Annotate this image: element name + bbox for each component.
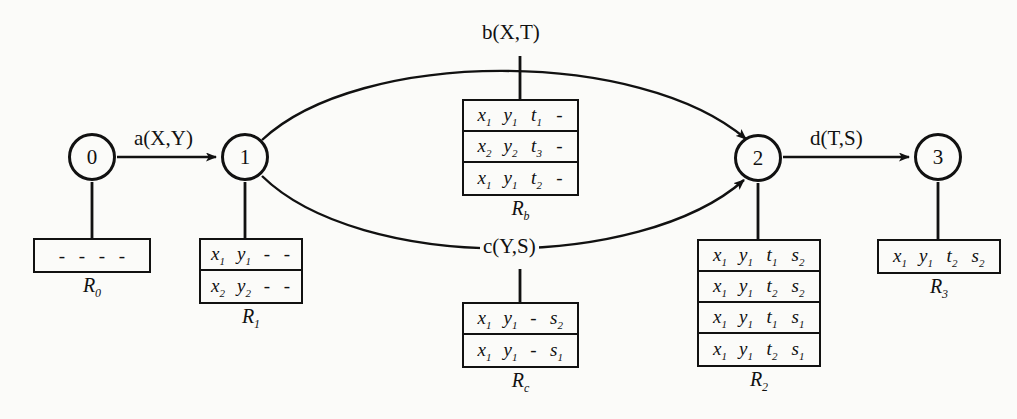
table-row-cells: x1y1t1-: [476, 104, 565, 128]
table-cell: y1: [738, 244, 755, 268]
relation-table-Rb-body: x1y1t1-x2y2t3-x1y1t2-: [462, 99, 579, 196]
relation-table-R3: x1y1t2s2 R3: [877, 239, 1001, 302]
edge-label-c: c(Y,S): [480, 234, 539, 259]
table-cell: s1: [790, 338, 807, 362]
relation-table-Rb: x1y1t1-x2y2t3-x1y1t2- Rb: [462, 99, 579, 224]
table-cell: y1: [738, 338, 755, 362]
table-cell: x1: [476, 167, 493, 191]
table-cell: x1: [712, 306, 729, 330]
relation-table-R0-body: ----: [33, 238, 151, 273]
table-cell: x2: [210, 275, 227, 299]
table-row-cells: x1y1t2s1: [712, 338, 807, 362]
table-cell: x1: [712, 338, 729, 362]
diagram-canvas: 0 1 2 3 a(X,Y) b(X,T) c(Y,S) d(T,S) ----…: [0, 0, 1017, 419]
graph-node-1[interactable]: 1: [221, 133, 269, 181]
table-cell: y2: [502, 135, 519, 159]
table-row: x2y2t3-: [464, 132, 577, 163]
table-cell: y2: [236, 275, 253, 299]
relation-table-R2: x1y1t1s2x1y1t2s2x1y1t1s1x1y1t2s1 R2: [697, 239, 821, 395]
table-cell: -: [77, 245, 88, 267]
table-row-cells: x2y2--: [210, 275, 293, 299]
table-cell: x1: [892, 245, 909, 269]
relation-table-R0: ---- R0: [33, 238, 151, 301]
relation-table-Rc-caption: Rc: [462, 369, 579, 396]
table-cell: s2: [970, 245, 987, 269]
table-cell: t2: [764, 338, 781, 362]
table-row-cells: x1y1-s2: [476, 307, 565, 331]
table-cell: s2: [790, 275, 807, 299]
table-cell: y1: [502, 104, 519, 128]
table-cell: t3: [528, 135, 545, 159]
table-row: x1y1t1-: [464, 101, 577, 132]
table-cell: y1: [502, 167, 519, 191]
graph-node-2[interactable]: 2: [734, 134, 782, 182]
relation-table-Rc-body: x1y1-s2x1y1-s1: [462, 302, 579, 368]
table-row-cells: x1y1t2s2: [712, 275, 807, 299]
table-cell: s2: [548, 307, 565, 331]
table-row: x1y1--: [201, 240, 301, 271]
graph-node-3[interactable]: 3: [914, 133, 962, 181]
graph-node-3-label: 3: [933, 145, 944, 170]
table-row-cells: ----: [57, 245, 128, 267]
table-cell: s1: [548, 339, 565, 363]
relation-table-R2-body: x1y1t1s2x1y1t2s2x1y1t1s1x1y1t2s1: [697, 239, 821, 367]
table-cell: -: [554, 104, 565, 126]
relation-table-R1-body: x1y1--x2y2--: [199, 238, 303, 304]
table-row: x2y2--: [201, 271, 301, 302]
graph-node-1-label: 1: [240, 145, 251, 170]
table-cell: -: [57, 245, 68, 267]
table-cell: x1: [712, 275, 729, 299]
table-row: x1y1t2s2: [879, 241, 999, 272]
table-cell: x1: [712, 244, 729, 268]
table-cell: -: [282, 243, 293, 265]
table-cell: x1: [476, 339, 493, 363]
table-cell: -: [282, 275, 293, 297]
table-row: x1y1t1s1: [699, 303, 819, 334]
graph-node-2-label: 2: [753, 146, 764, 171]
graph-node-0[interactable]: 0: [68, 133, 116, 181]
table-row-cells: x1y1t1s1: [712, 306, 807, 330]
table-cell: y1: [738, 306, 755, 330]
relation-table-R1: x1y1--x2y2-- R1: [199, 238, 303, 332]
edge-label-b: b(X,T): [479, 20, 543, 45]
table-row-cells: x1y1t2-: [476, 167, 565, 191]
table-cell: -: [528, 307, 539, 329]
relation-table-R1-caption: R1: [199, 305, 303, 332]
table-cell: -: [554, 167, 565, 189]
table-row-cells: x1y1-s1: [476, 339, 565, 363]
table-cell: y1: [236, 243, 253, 267]
graph-node-0-label: 0: [87, 145, 98, 170]
edge-label-d: d(T,S): [807, 126, 866, 151]
table-cell: t1: [764, 244, 781, 268]
table-row: x1y1t2s2: [699, 272, 819, 303]
table-cell: t2: [944, 245, 961, 269]
table-row-cells: x2y2t3-: [476, 135, 565, 159]
relation-table-R3-body: x1y1t2s2: [877, 239, 1001, 274]
table-cell: -: [117, 245, 128, 267]
table-cell: y1: [502, 307, 519, 331]
table-cell: x1: [476, 104, 493, 128]
table-cell: -: [262, 243, 273, 265]
table-cell: -: [528, 339, 539, 361]
table-row: ----: [35, 240, 149, 271]
table-row: x1y1t1s2: [699, 241, 819, 272]
table-row: x1y1-s2: [464, 304, 577, 335]
relation-table-R0-caption: R0: [33, 274, 151, 301]
table-row: x1y1t2-: [464, 163, 577, 194]
table-cell: s2: [790, 244, 807, 268]
table-cell: t2: [764, 275, 781, 299]
table-cell: x1: [210, 243, 227, 267]
table-row: x1y1t2s1: [699, 334, 819, 365]
table-cell: t1: [764, 306, 781, 330]
relation-table-Rc: x1y1-s2x1y1-s1 Rc: [462, 302, 579, 396]
relation-table-Rb-caption: Rb: [462, 197, 579, 224]
table-cell: -: [554, 135, 565, 157]
table-cell: x2: [476, 135, 493, 159]
relation-table-R3-caption: R3: [877, 275, 1001, 302]
table-cell: y1: [738, 275, 755, 299]
edge-label-a: a(X,Y): [131, 126, 196, 151]
table-cell: y1: [502, 339, 519, 363]
table-cell: y1: [918, 245, 935, 269]
table-cell: t1: [528, 104, 545, 128]
table-cell: x1: [476, 307, 493, 331]
